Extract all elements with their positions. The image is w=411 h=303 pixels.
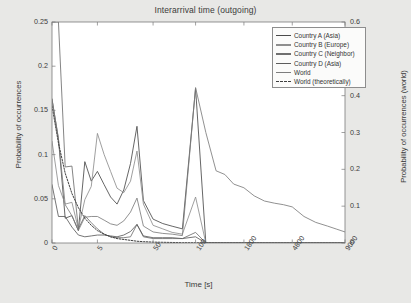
y-tick-label-right: 0.2	[350, 164, 380, 173]
chart-legend: Country A (Asia)Country B (Europe)Countr…	[272, 27, 366, 88]
y-tick-label-right: 0.3	[350, 128, 380, 137]
legend-item-label: World (theoretically)	[294, 77, 351, 86]
legend-item[interactable]: World	[276, 68, 362, 77]
y-tick-label-left: 0.25	[18, 17, 48, 26]
legend-item-label: World	[294, 68, 311, 77]
legend-item[interactable]: Country A (Asia)	[276, 31, 362, 40]
chart-figure: Interarrival time (outgoing) Probability…	[0, 0, 411, 303]
y-tick-label-right: 0.6	[350, 17, 380, 26]
legend-item-label: Country B (Europe)	[294, 40, 349, 49]
legend-line-icon	[276, 41, 291, 48]
legend-line-icon	[276, 78, 291, 85]
legend-item-label: Country C (Neighbor)	[294, 49, 355, 58]
legend-item-label: Country D (Asia)	[294, 59, 341, 68]
legend-item[interactable]: Country B (Europe)	[276, 40, 362, 49]
legend-line-icon	[276, 50, 291, 57]
legend-line-icon	[276, 69, 291, 76]
legend-item[interactable]: World (theoretically)	[276, 77, 362, 86]
y-tick-label-left: 0.15	[18, 105, 48, 114]
y-tick-label-right: 0.4	[350, 91, 380, 100]
legend-line-icon	[276, 32, 291, 39]
y-tick-label-left: 0	[18, 238, 48, 247]
legend-item[interactable]: Country C (Neighbor)	[276, 49, 362, 58]
y-tick-label-left: 0.1	[18, 150, 48, 159]
y-tick-label-left: 0.05	[18, 194, 48, 203]
legend-line-icon	[276, 60, 291, 67]
y-tick-label-left: 0.2	[18, 61, 48, 70]
y-tick-label-right: 0.1	[350, 201, 380, 210]
legend-item[interactable]: Country D (Asia)	[276, 59, 362, 68]
legend-item-label: Country A (Asia)	[294, 31, 340, 40]
